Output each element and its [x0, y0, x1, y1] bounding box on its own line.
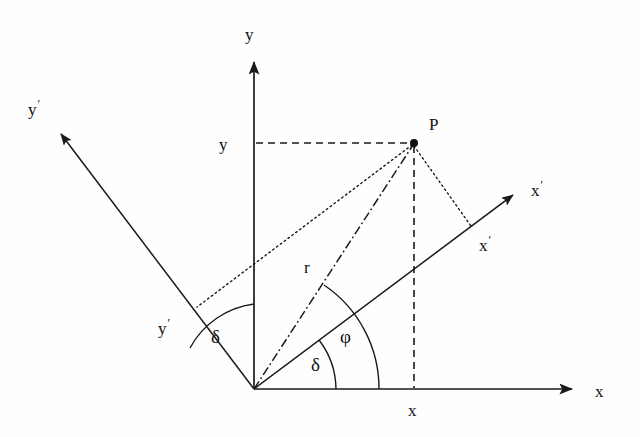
x-axis-label: x — [595, 383, 604, 400]
y-prime-axis-label: y′ — [28, 98, 40, 118]
prime-mark-icon: ′ — [541, 178, 544, 192]
x-prime-axis-label-text: x — [531, 181, 540, 200]
delta-right-arc — [319, 340, 336, 389]
y-prime-foot-label-text: y — [158, 319, 167, 338]
angle-delta-left-label: δ — [211, 327, 220, 346]
radius-label: r — [304, 259, 310, 276]
x-coordinate-label: x — [408, 402, 417, 419]
radius-vector-line — [254, 145, 413, 389]
phi-arc — [324, 285, 379, 389]
x-prime-foot-label: x′ — [479, 234, 491, 254]
point-p-marker — [410, 139, 418, 147]
diagram-canvas — [0, 0, 640, 437]
y-prime-axis-line — [61, 134, 254, 389]
y-prime-foot-label: y′ — [158, 317, 170, 337]
prime-mark-icon: ′ — [489, 233, 492, 247]
y-prime-axis-label-text: y — [28, 100, 37, 119]
x-prime-axis-label: x′ — [531, 179, 543, 199]
delta-left-arc — [190, 304, 254, 348]
x-prime-projection-dotted-line — [414, 146, 471, 226]
angle-phi-label: φ — [340, 327, 351, 346]
angle-delta-right-label: δ — [311, 355, 320, 374]
y-coordinate-label: y — [219, 136, 228, 153]
prime-mark-icon: ′ — [38, 97, 41, 111]
prime-mark-icon: ′ — [168, 316, 171, 330]
x-prime-axis-line — [254, 195, 513, 389]
y-axis-label: y — [245, 26, 254, 43]
coordinate-system-diagram: y x y′ x′ y′ x′ y x P r δ δ φ — [0, 0, 640, 437]
y-prime-projection-dotted-line — [197, 145, 412, 307]
x-prime-foot-label-text: x — [479, 236, 488, 255]
point-p-label: P — [429, 116, 438, 133]
